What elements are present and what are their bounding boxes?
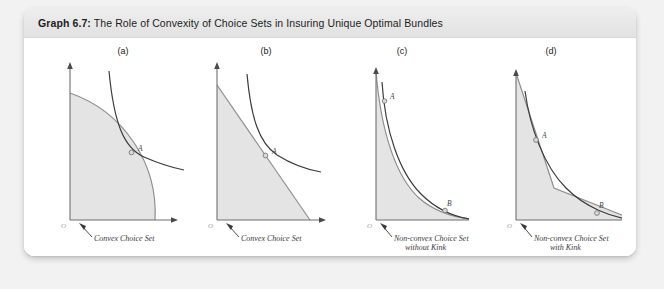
panel-d-plot: A B O Non-convex Choice Set with Kink — [462, 38, 622, 256]
caption-line-d-0: Non-convex Choice Set — [533, 234, 609, 243]
panel-b-plot: A O Convex Choice Set — [179, 38, 329, 256]
panel-c: (c) A B O Non-convex Ch — [319, 38, 469, 256]
tangency-point-b-c — [443, 208, 448, 213]
y-axis-arrow-d — [513, 69, 519, 76]
tangency-point-b-d — [595, 211, 600, 216]
point-label-b-c: B — [447, 199, 452, 208]
y-axis-arrow-b — [214, 62, 220, 69]
caption-line-a-0: Convex Choice Set — [94, 234, 155, 243]
caption-line-c-1: without Kink — [405, 243, 447, 252]
figure-body: (a) A O Convex Choice Set — [24, 38, 636, 256]
tangency-point-b — [263, 153, 268, 158]
panel-a-plot: A O Convex Choice Set — [34, 38, 184, 256]
caption-line-d-1: with Kink — [550, 243, 581, 252]
graph-number-label: Graph 6.7: — [38, 17, 91, 29]
caption-line-b-0: Convex Choice Set — [241, 234, 302, 243]
point-label-a: A — [137, 144, 143, 153]
graph-header: Graph 6.7: The Role of Convexity of Choi… — [24, 8, 636, 38]
panel-b: (b) A O Convex Choice Set — [179, 38, 329, 256]
y-axis-arrow-a — [67, 62, 73, 69]
graph-title: The Role of Convexity of Choice Sets in … — [94, 17, 443, 29]
panel-c-plot: A B O Non-convex Choice Set without Kink — [319, 38, 469, 256]
point-label-b-d: B — [599, 201, 604, 210]
caption-pointer-arrow-c — [380, 223, 387, 230]
point-label-a-d: A — [541, 131, 547, 140]
graph-header-text: Graph 6.7: The Role of Convexity of Choi… — [24, 17, 443, 29]
point-label-a-c: A — [389, 92, 395, 101]
point-label-b: A — [271, 147, 277, 156]
caption-pointer-arrow-d — [520, 223, 527, 230]
tangency-point-a-d — [534, 138, 539, 143]
y-axis-arrow-c — [373, 67, 379, 74]
tangency-point-a — [129, 150, 134, 155]
graph-card: Graph 6.7: The Role of Convexity of Choi… — [24, 8, 636, 256]
origin-label-c: O — [367, 222, 372, 230]
origin-label-d: O — [507, 222, 512, 230]
x-axis-arrow-a — [171, 217, 178, 223]
tangency-point-a-c — [382, 99, 387, 104]
panel-a: (a) A O Convex Choice Set — [34, 38, 184, 256]
choice-set-region-d — [516, 73, 622, 220]
caption-line-c-0: Non-convex Choice Set — [393, 234, 469, 243]
origin-label-b: O — [208, 222, 213, 230]
panel-d: (d) A B O Non-convex Ch — [462, 38, 612, 256]
origin-label-a: O — [61, 222, 66, 230]
